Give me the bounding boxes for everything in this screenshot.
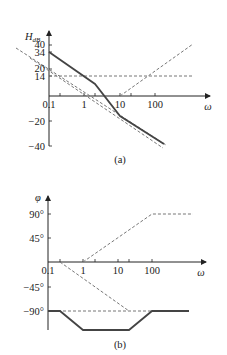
- x-tick-1: 1: [81, 99, 86, 110]
- magnitude-plot: HdB 40 34 20 14 −20 −40 0.1 1 10 100 ω (…: [16, 31, 212, 166]
- x-tick-10: 10: [113, 265, 124, 276]
- y-tick-minus40: −40: [29, 141, 45, 152]
- caption-b: (b): [114, 339, 127, 351]
- x-axis-label: ω: [197, 267, 204, 278]
- y-tick-14: 14: [35, 71, 46, 82]
- y-axis-label: φ: [35, 192, 41, 203]
- y-tick-34: 34: [35, 47, 46, 58]
- x-tick-100: 100: [144, 265, 160, 276]
- x-tick-1: 1: [80, 265, 85, 276]
- phase-curve: [48, 311, 189, 330]
- asymptote-rising: [120, 44, 193, 96]
- y-tick-90: 90°: [29, 209, 44, 220]
- y-tick-minus90: −90°: [23, 306, 44, 317]
- x-axis-label: ω: [204, 101, 211, 112]
- y-tick-45: 45°: [29, 233, 44, 244]
- magnitude-curve: [49, 52, 164, 144]
- caption-a: (a): [114, 154, 126, 166]
- x-tick-10: 10: [115, 99, 126, 110]
- phase-plot: φ 90° 45° −45° −90° 0.1 1 10 100 ω (b): [23, 192, 206, 351]
- asymptote-rising: [83, 214, 193, 262]
- x-tick-100: 100: [147, 99, 163, 110]
- y-tick-minus20: −20: [29, 116, 45, 127]
- bode-plots: HdB 40 34 20 14 −20 −40 0.1 1 10 100 ω (…: [0, 0, 227, 355]
- x-tick-0.1: 0.1: [42, 99, 55, 110]
- x-tick-0.1: 0.1: [41, 265, 54, 276]
- y-tick-minus45: −45°: [23, 282, 44, 293]
